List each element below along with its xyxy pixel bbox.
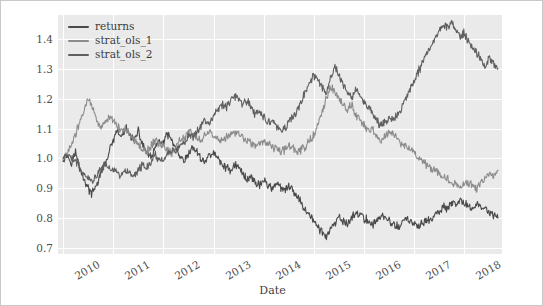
legend-item-strat-ols-2: strat_ols_2 — [68, 49, 152, 60]
legend-swatch-strat-ols-1 — [68, 40, 89, 42]
x-tick-label: 2013 — [223, 258, 252, 282]
legend-label-strat-ols-1: strat_ols_1 — [95, 35, 152, 46]
legend-swatch-strat-ols-2 — [68, 54, 89, 56]
x-tick-label: 2010 — [73, 258, 102, 282]
legend-label-strat-ols-2: strat_ols_2 — [95, 49, 152, 60]
legend-swatch-returns — [68, 26, 89, 28]
x-tick-label: 2015 — [323, 258, 352, 282]
x-axis-label: Date — [1, 284, 543, 297]
x-tick-label: 2017 — [424, 258, 453, 282]
legend-item-returns: returns — [68, 21, 152, 32]
x-tick-label: 2012 — [173, 258, 202, 282]
legend-item-strat-ols-1: strat_ols_1 — [68, 35, 152, 46]
x-tick-label: 2016 — [374, 258, 403, 282]
figure-canvas: 1.41.31.21.11.00.90.80.7 201020112012201… — [0, 0, 543, 306]
chart-legend: returns strat_ols_1 strat_ols_2 — [64, 19, 156, 62]
x-tick-label: 2014 — [273, 258, 302, 282]
x-tick-label: 2011 — [123, 258, 152, 282]
x-tick-label: 2018 — [474, 258, 503, 282]
legend-label-returns: returns — [95, 21, 134, 32]
